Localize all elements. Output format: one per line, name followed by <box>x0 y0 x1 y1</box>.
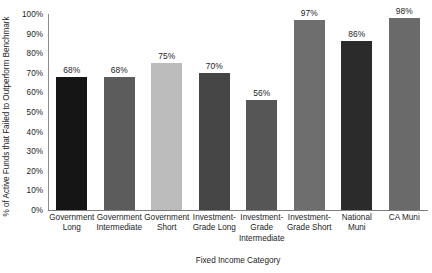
bar[interactable] <box>199 73 230 210</box>
y-axis-tick-label: 40% <box>27 127 43 136</box>
bar-chart: % of Active Funds that Failed to Outperf… <box>0 0 432 273</box>
bar-group: 98% <box>389 14 420 210</box>
bar[interactable] <box>151 63 182 210</box>
bar-value-label: 68% <box>111 65 128 75</box>
x-axis-category-label-line: Grade Short <box>286 223 334 233</box>
x-axis-category-label-line: Government <box>143 213 191 223</box>
bar[interactable] <box>56 77 87 210</box>
bar-group: 75% <box>151 14 182 210</box>
y-axis-tick-label: 90% <box>27 29 43 38</box>
y-axis-tick-label: 70% <box>27 68 43 77</box>
x-axis-category-label-line: Investment- <box>286 213 334 223</box>
bar-value-label: 68% <box>63 65 80 75</box>
x-axis-category-label: GovernmentShort <box>143 213 191 234</box>
y-axis-tick-labels: 100%90%80%70%60%50%40%30%20%10%0% <box>14 10 45 210</box>
bar[interactable] <box>104 77 135 210</box>
x-axis-category-label-line: Government <box>48 213 96 223</box>
bar-group: 68% <box>56 14 87 210</box>
x-axis-category-label-line: Grade <box>238 223 286 233</box>
bar[interactable] <box>389 18 420 210</box>
bar-group: 56% <box>246 14 277 210</box>
bar[interactable] <box>246 100 277 210</box>
x-axis-category-label-line: Muni <box>333 223 381 233</box>
y-axis-tick-label: 30% <box>27 147 43 156</box>
x-axis-category-label-line: Intermediate <box>96 223 144 233</box>
bar-value-label: 97% <box>301 8 318 18</box>
y-axis-tick-label: 0% <box>31 206 43 215</box>
bar-value-label: 70% <box>206 61 223 71</box>
x-axis-category-label-line: Intermediate <box>238 234 286 244</box>
x-axis-category-label: GovernmentIntermediate <box>96 213 144 234</box>
x-axis-category-label: NationalMuni <box>333 213 381 234</box>
y-axis-tick-label: 50% <box>27 108 43 117</box>
bar-value-label: 86% <box>348 29 365 39</box>
x-axis-category-label-line: Investment- <box>238 213 286 223</box>
x-axis-category-label-line: National <box>333 213 381 223</box>
bar[interactable] <box>294 20 325 210</box>
bar-group: 68% <box>104 14 135 210</box>
x-axis-category-label: CA Muni <box>381 213 429 223</box>
x-axis-line <box>48 210 428 211</box>
x-axis-category-label-line: Short <box>143 223 191 233</box>
bar-value-label: 75% <box>158 51 175 61</box>
x-axis-category-label-line: Grade Long <box>191 223 239 233</box>
y-axis-tick-label: 20% <box>27 166 43 175</box>
x-axis-title: Fixed Income Category <box>48 256 428 265</box>
y-axis-title-text: % of Active Funds that Failed to Outperf… <box>3 16 12 216</box>
x-axis-category-label-line: Investment- <box>191 213 239 223</box>
y-axis-title: % of Active Funds that Failed to Outperf… <box>0 0 14 232</box>
x-axis-category-label: Investment-Grade Short <box>286 213 334 234</box>
x-axis-category-label: GovernmentLong <box>48 213 96 234</box>
bar-group: 86% <box>341 14 372 210</box>
bars-layer: 68%68%75%70%56%97%86%98% <box>48 14 428 210</box>
y-axis-tick-label: 80% <box>27 49 43 58</box>
x-axis-category-label: Investment-GradeIntermediate <box>238 213 286 244</box>
y-axis-tick-label: 60% <box>27 88 43 97</box>
bar-value-label: 56% <box>253 88 270 98</box>
x-axis-category-label: Investment-Grade Long <box>191 213 239 234</box>
y-axis-tick-label: 10% <box>27 186 43 195</box>
y-axis-tick-label: 100% <box>22 10 43 19</box>
bar-group: 70% <box>199 14 230 210</box>
x-axis-category-label-line: CA Muni <box>381 213 429 223</box>
x-axis-category-labels: GovernmentLongGovernmentIntermediateGove… <box>48 213 428 253</box>
bar[interactable] <box>341 41 372 210</box>
x-axis-category-label-line: Long <box>48 223 96 233</box>
x-axis-category-label-line: Government <box>96 213 144 223</box>
bar-group: 97% <box>294 14 325 210</box>
plot-area: 68%68%75%70%56%97%86%98% <box>48 14 428 210</box>
bar-value-label: 98% <box>396 6 413 16</box>
